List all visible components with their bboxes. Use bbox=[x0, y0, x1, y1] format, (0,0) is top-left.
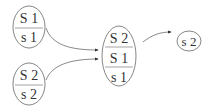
node-n3-row-0: S 2 bbox=[110, 31, 128, 46]
node-n2-row-0: S 2 bbox=[20, 68, 38, 83]
node-n2: S 2 s 2 bbox=[13, 63, 45, 105]
node-n1-row-1: s 1 bbox=[21, 30, 37, 45]
diagram-canvas: S 1 s 1 S 2 s 2 S 2 S 1 s 1 s 2 bbox=[0, 0, 213, 110]
node-n1: S 1 s 1 bbox=[13, 6, 45, 48]
node-n4: s 2 bbox=[177, 31, 201, 51]
edge-n2-n3 bbox=[46, 59, 98, 80]
node-n3-row-2: s 1 bbox=[111, 70, 127, 85]
node-n2-row-1: s 2 bbox=[21, 87, 37, 102]
edge-n1-n3 bbox=[46, 28, 98, 50]
node-n3-row-1: S 1 bbox=[110, 51, 128, 66]
node-n4-row-0: s 2 bbox=[182, 34, 197, 49]
node-n1-row-0: S 1 bbox=[20, 11, 38, 26]
node-n3: S 2 S 1 s 1 bbox=[102, 26, 136, 86]
edge-n3-n4 bbox=[143, 32, 171, 42]
